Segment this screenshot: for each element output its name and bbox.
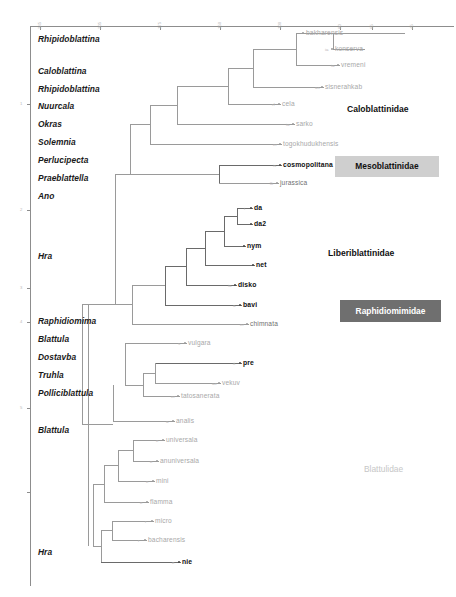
- species-label: bavi: [243, 301, 257, 308]
- top-axis-tick-label: 45: [409, 24, 414, 29]
- species-prefix-code: e: [172, 560, 174, 565]
- species-prefix-code: i: [244, 206, 245, 211]
- family-label: Liberiblattinidae: [328, 248, 394, 258]
- left-axis-tick: [27, 210, 31, 211]
- species-label: net: [256, 261, 267, 268]
- species-label: pre: [243, 359, 254, 366]
- species-label: nym: [247, 242, 261, 249]
- species-label: togokhudukhensis: [283, 140, 339, 147]
- species-prefix-code: is: [273, 163, 276, 168]
- left-axis-tick: [27, 322, 31, 323]
- species-prefix-code: e: [150, 459, 152, 464]
- genus-label: Dostavba: [38, 352, 76, 362]
- cladogram-figure: 245205175150100806545 12345: [0, 0, 456, 597]
- species-label: universala: [166, 436, 198, 443]
- species-prefix-code: e: [140, 500, 142, 505]
- top-axis-tick-label: 205: [97, 22, 102, 29]
- left-axis-tick: [27, 288, 31, 289]
- species-prefix-code: ia: [331, 63, 334, 68]
- species-label: sarko: [296, 120, 313, 127]
- genus-label: Rhipidoblattina: [38, 34, 100, 44]
- genus-label: Caloblattina: [38, 66, 87, 76]
- species-label: analis: [176, 417, 194, 424]
- family-label-box: Raphidiomimidae: [340, 300, 441, 322]
- left-axis-tick-label: 1: [20, 101, 22, 106]
- top-axis-tick-label: 245: [37, 22, 42, 29]
- genus-label: Polliciblattula: [38, 388, 93, 398]
- genus-label: Rhipidoblattina: [38, 84, 100, 94]
- species-label: tatosanerata: [181, 392, 219, 399]
- genus-label: Truhla: [38, 370, 64, 380]
- species-prefix-code: a: [166, 419, 168, 424]
- genus-label: Blattula: [38, 425, 69, 435]
- species-label: vekuv: [222, 379, 240, 386]
- species-label: flamma: [150, 498, 173, 505]
- left-axis-line: [30, 26, 31, 586]
- species-label: bakharensis: [306, 29, 343, 36]
- genus-label: Nuurcala: [38, 101, 74, 111]
- genus-label: Okras: [38, 119, 62, 129]
- genus-label: Ano: [38, 191, 54, 201]
- genus-label: Raphidiomima: [38, 316, 96, 326]
- species-prefix-code: ia: [228, 283, 231, 288]
- species-label: cosmopolitana: [283, 161, 333, 168]
- left-axis-tick-label: 5: [20, 405, 22, 410]
- family-label-box: Mesoblattinidae: [335, 156, 439, 177]
- top-axis-line: [30, 26, 454, 27]
- species-prefix-code: r: [145, 519, 146, 524]
- species-prefix-code: as: [315, 85, 320, 90]
- species-prefix-code: ae: [212, 381, 217, 386]
- family-label: Blattulidae: [364, 464, 403, 474]
- species-label: bacharensis: [148, 536, 185, 543]
- genus-label: Hra: [38, 547, 52, 557]
- species-label: disko: [238, 281, 257, 288]
- top-axis-tick-label: 65: [369, 24, 374, 29]
- genus-label: Praeblattella: [38, 173, 88, 183]
- genus-label: Hra: [38, 251, 52, 261]
- species-label: cela: [282, 100, 295, 107]
- genus-label: Solemnia: [38, 137, 76, 147]
- left-axis-tick-label: 2: [20, 207, 22, 212]
- top-axis-tick-label: 150: [217, 22, 222, 29]
- species-prefix-code: s: [178, 341, 180, 346]
- left-axis-tick: [27, 408, 31, 409]
- genus-label: Blattula: [38, 334, 69, 344]
- species-prefix-code: er: [240, 322, 244, 327]
- species-label: konserva: [335, 45, 363, 52]
- left-axis-tick-label: 3: [20, 285, 22, 290]
- species-prefix-code: lli: [270, 181, 273, 186]
- species-label: vremeni: [341, 61, 366, 68]
- species-label: jurassica: [280, 179, 307, 186]
- top-axis-tick-label: 100: [277, 22, 282, 29]
- species-label: da: [254, 204, 262, 211]
- family-label: Caloblattinidae: [347, 104, 409, 114]
- species-label: nie: [182, 558, 192, 565]
- species-prefix-code: ia: [325, 47, 328, 52]
- species-prefix-code: er: [171, 394, 175, 399]
- left-axis-tick: [27, 104, 31, 105]
- species-prefix-code: e: [156, 438, 158, 443]
- species-prefix-code: ia: [286, 122, 289, 127]
- species-label: anuniversala: [160, 457, 199, 464]
- species-prefix-code: rf: [272, 102, 275, 107]
- species-prefix-code: e: [146, 479, 148, 484]
- left-axis-tick-label: 4: [20, 319, 22, 324]
- species-label: vulgara: [188, 339, 211, 346]
- species-label: sisnerahkab: [325, 83, 362, 90]
- species-prefix-code: r: [138, 538, 139, 543]
- species-prefix-code: it: [233, 361, 235, 366]
- species-label: micro: [155, 517, 172, 524]
- species-prefix-code: a: [233, 303, 235, 308]
- species-label: da2: [254, 220, 266, 227]
- species-label: mini: [156, 477, 169, 484]
- species-prefix-code: er: [273, 142, 277, 147]
- genus-label: Perlucipecta: [38, 155, 88, 165]
- top-axis-tick-label: 175: [157, 22, 162, 29]
- species-label: chimnata: [250, 320, 278, 327]
- left-axis-tick: [27, 492, 31, 493]
